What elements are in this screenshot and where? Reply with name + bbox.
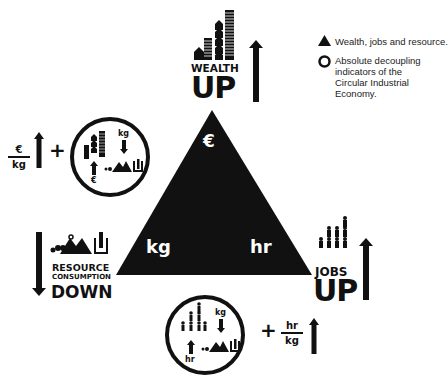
legend-label: Wealth, jobs and resource. xyxy=(335,36,448,47)
hr-label: hr xyxy=(185,355,195,364)
legend-item-circle: Absolute decoupling indicators of the Ci… xyxy=(318,55,424,99)
arrow-up-icon xyxy=(34,132,44,168)
arrow-up-icon xyxy=(309,318,319,354)
triangle-kg-label: kg xyxy=(146,236,171,257)
jobs-up-label: UP xyxy=(313,277,357,305)
arrow-up-icon xyxy=(359,238,373,300)
jobs-people-icon xyxy=(318,216,350,250)
indicator-circle-bottom: hr kg xyxy=(165,295,245,375)
arrow-up-icon xyxy=(249,40,263,102)
resource-label-line1: RESOURCE xyxy=(52,262,109,273)
resource-label-line2: CONSUMPTION xyxy=(52,273,111,281)
euro-per-kg-fraction: € kg xyxy=(8,144,30,170)
triangle-icon xyxy=(318,35,331,46)
plus-sign: + xyxy=(260,318,277,342)
triangle-hr-label: hr xyxy=(250,236,272,257)
arrow-down-icon xyxy=(32,232,46,296)
kg-label: kg xyxy=(215,308,226,317)
triangle-euro-label: € xyxy=(203,131,215,151)
circle-icon xyxy=(318,55,331,68)
plus-sign: + xyxy=(49,138,66,162)
euro-label: € xyxy=(91,176,97,185)
resource-label-down: DOWN xyxy=(51,282,113,302)
wealth-up-label: UP xyxy=(191,74,235,102)
legend-label: Absolute decoupling indicators of the Ci… xyxy=(335,55,424,99)
wealth-coins-icon xyxy=(194,8,236,60)
resource-icon xyxy=(50,230,108,256)
legend-item-triangle: Wealth, jobs and resource. xyxy=(318,36,424,47)
legend: Wealth, jobs and resource. Absolute deco… xyxy=(318,36,424,99)
hr-per-kg-fraction: hr kg xyxy=(281,320,303,346)
